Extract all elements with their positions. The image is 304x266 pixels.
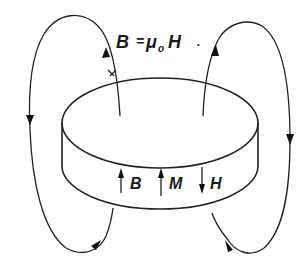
right-loop-arrow-down-icon [286, 134, 294, 145]
left-loop-upper [30, 16, 120, 130]
h-arrow-down-icon [199, 184, 205, 194]
m-arrow-up-icon [158, 168, 164, 178]
equation-period: . [197, 35, 200, 49]
left-loop-tick-mark [108, 70, 116, 76]
equation-lhs: B [116, 32, 129, 52]
equation-equals: = [136, 33, 144, 49]
label-b: B [130, 175, 142, 192]
left-loop-arrow-up-icon [102, 47, 110, 58]
label-m: M [169, 175, 183, 192]
h-vector: H [199, 167, 222, 194]
m-vector: M [158, 168, 183, 196]
left-field-loop [26, 16, 120, 253]
right-loop-upper [203, 22, 290, 140]
b-vector: B [118, 168, 142, 193]
disc [62, 78, 258, 209]
left-loop-arrow-down-icon [26, 115, 34, 125]
left-loop-lower [30, 130, 113, 252]
equation-rhs: H [168, 32, 182, 52]
equation-subscript: o [158, 43, 164, 54]
b-arrow-up-icon [118, 168, 124, 178]
disc-top-face [62, 78, 258, 168]
right-field-loop [203, 22, 294, 253]
label-h: H [210, 175, 222, 192]
magnetized-disc-diagram: B = μ o H . B M H [0, 0, 304, 266]
equation: B = μ o H . [116, 32, 200, 54]
equation-mu: μ [145, 32, 157, 52]
